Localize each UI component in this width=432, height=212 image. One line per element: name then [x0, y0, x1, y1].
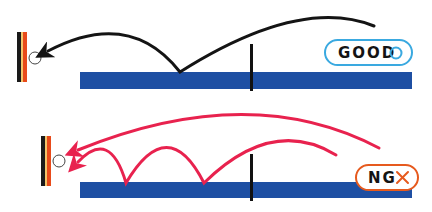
- ng-badge: NG: [356, 165, 418, 190]
- ng-trajectory-bounce-arrow: [78, 141, 336, 183]
- table-surface: [80, 72, 412, 89]
- good-badge: GOOD: [325, 40, 412, 65]
- ng-badge-label: NG: [368, 169, 397, 187]
- ball-icon: [29, 52, 41, 64]
- good-panel: GOOD: [17, 18, 412, 91]
- serve-diagram: GOOD NG: [0, 0, 432, 212]
- good-badge-label: GOOD: [338, 44, 396, 62]
- ng-trajectory-long-arrow: [78, 114, 379, 150]
- net: [250, 44, 253, 91]
- ng-panel: NG: [41, 114, 418, 201]
- ball-icon: [53, 155, 65, 167]
- paddle-icon: [17, 32, 27, 82]
- paddle-icon: [41, 136, 51, 186]
- good-trajectory-arrow: [48, 18, 374, 72]
- net: [250, 154, 253, 201]
